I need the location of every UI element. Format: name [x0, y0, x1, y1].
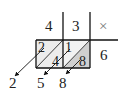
result-digit-2: 5 — [37, 75, 45, 91]
cell-left-tens: 2 — [38, 40, 45, 55]
header-digit-2: 3 — [72, 18, 80, 34]
cell-right-tens: 1 — [65, 40, 72, 55]
cell-right-ones: 8 — [79, 54, 86, 69]
header-digit-1: 4 — [45, 18, 53, 34]
lattice-diagram: 4 3 × 6 2 4 1 8 2 5 8 — [0, 0, 123, 94]
result-digit-1: 2 — [9, 75, 17, 91]
cell-left-ones: 4 — [52, 54, 59, 69]
result-digit-3: 8 — [59, 75, 67, 91]
times-symbol: × — [99, 18, 107, 34]
multiplier-digit: 6 — [100, 47, 108, 63]
